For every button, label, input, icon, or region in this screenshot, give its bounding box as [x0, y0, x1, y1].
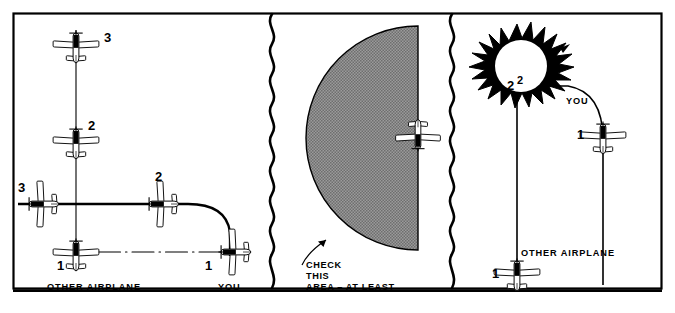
- caption-you: YOU: [218, 282, 241, 292]
- label-other-pos-1: 1: [57, 258, 64, 273]
- caption-other-airplane: OTHER AIRPLANE: [521, 248, 615, 258]
- caption-other-airplane: OTHER AIRPLANE: [47, 282, 141, 292]
- callout-line-3: AREA – AT LEAST: [306, 282, 395, 292]
- label-you-pos-1: 1: [577, 127, 584, 142]
- illustration-canvas: 3 2 1 3 2 1 OTHER AIRPLANE YOU CHECK THI…: [0, 0, 675, 313]
- label-other-pos-3: 3: [104, 30, 111, 45]
- figure-root: 3 2 1 3 2 1 OTHER AIRPLANE YOU CHECK THI…: [0, 0, 675, 313]
- callout-line-2: THIS: [306, 271, 329, 281]
- label-you-pos-2: 2: [155, 169, 162, 184]
- label-collision-left: 2: [507, 78, 514, 93]
- callout-line-1: CHECK: [306, 260, 342, 270]
- label-other-pos-2: 2: [88, 118, 95, 133]
- label-other-pos-1: 1: [492, 266, 499, 281]
- label-you-pos-3: 3: [18, 180, 25, 195]
- label-you-pos-1: 1: [205, 258, 212, 273]
- label-collision-right: 2: [517, 74, 523, 86]
- caption-you: YOU: [566, 96, 589, 106]
